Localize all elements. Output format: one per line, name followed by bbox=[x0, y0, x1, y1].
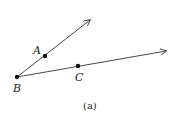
point-b bbox=[15, 75, 19, 79]
label-a: A bbox=[32, 44, 41, 57]
label-c: C bbox=[75, 71, 84, 84]
label-b: B bbox=[12, 82, 21, 95]
ray-ba bbox=[17, 20, 90, 77]
point-a bbox=[43, 54, 47, 58]
figure-caption: (a) bbox=[83, 100, 97, 111]
point-c bbox=[76, 64, 80, 68]
angle-diagram: A B C (a) bbox=[0, 0, 196, 123]
